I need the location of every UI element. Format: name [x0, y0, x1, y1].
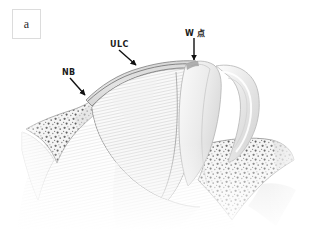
annotation-arrows	[0, 0, 310, 231]
label-nb: NB	[62, 68, 76, 77]
label-ulc: ULC	[110, 40, 129, 49]
nb-arrow	[70, 78, 85, 95]
anatomical-figure: a ULC NB W 点	[0, 0, 310, 231]
ulc-arrow	[119, 50, 136, 65]
label-w-point: W 点	[185, 27, 206, 38]
